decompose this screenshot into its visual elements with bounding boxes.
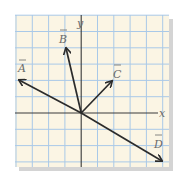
y-axis-label: y <box>76 17 84 30</box>
vector-diagram: x y A B C D <box>0 0 180 180</box>
label-d: D <box>153 135 163 151</box>
label-a: A <box>17 60 26 75</box>
label-b: B <box>58 30 67 46</box>
label-c: C <box>113 65 122 81</box>
svg-text:B: B <box>58 33 67 46</box>
svg-text:D: D <box>153 138 163 151</box>
svg-text:A: A <box>17 62 26 75</box>
x-axis-label: x <box>159 107 166 120</box>
svg-text:C: C <box>113 68 122 81</box>
